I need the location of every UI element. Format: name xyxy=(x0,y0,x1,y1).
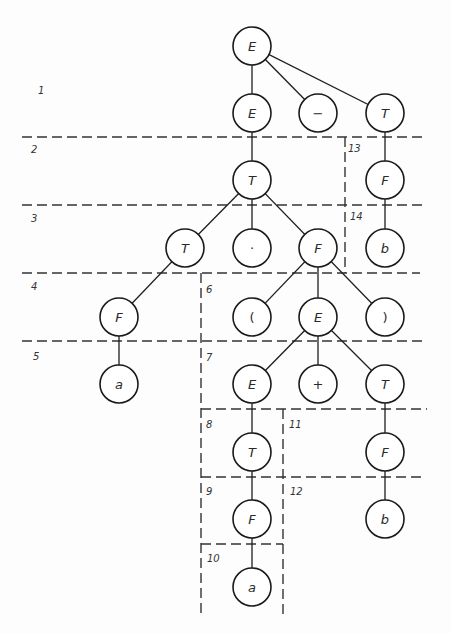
tree-node-symbol: E xyxy=(233,365,271,403)
region-number-label: 6 xyxy=(206,284,212,295)
region-number-label: 11 xyxy=(289,419,302,430)
node-label: F xyxy=(314,241,322,256)
tree-node-symbol: T xyxy=(166,229,204,267)
tree-node-symbol: T xyxy=(366,94,404,132)
region-number-label: 8 xyxy=(206,419,212,430)
tree-node-symbol: E xyxy=(233,94,271,132)
parse-tree-diagram: EE−TTFT·FbF(E)aE+TTFFba 1234567891011121… xyxy=(0,0,451,634)
tree-node-terminal: b xyxy=(366,500,404,538)
tree-node-symbol: F xyxy=(299,229,337,267)
node-label: E xyxy=(248,106,257,121)
node-label: + xyxy=(313,377,324,392)
tree-node-terminal: b xyxy=(366,229,404,267)
node-label: F xyxy=(381,173,389,188)
region-number-label: 2 xyxy=(31,144,37,155)
region-number-label: 10 xyxy=(207,553,220,564)
tree-node-symbol: E xyxy=(233,27,271,65)
tree-nodes: EE−TTFT·FbF(E)aE+TTFFba xyxy=(100,27,404,606)
tree-node-symbol: F xyxy=(366,433,404,471)
node-label: a xyxy=(115,377,123,392)
tree-node-operator: + xyxy=(299,365,337,403)
node-label: T xyxy=(248,445,257,460)
region-number-label: 4 xyxy=(31,281,37,292)
node-label: a xyxy=(248,580,256,595)
tree-node-terminal: a xyxy=(233,568,271,606)
tree-node-symbol: T xyxy=(233,161,271,199)
tree-node-symbol: E xyxy=(299,298,337,336)
tree-node-symbol: F xyxy=(100,298,138,336)
node-label: T xyxy=(248,173,257,188)
node-label: F xyxy=(381,445,389,460)
region-number-label: 5 xyxy=(33,351,39,362)
tree-node-terminal: a xyxy=(100,365,138,403)
node-label: F xyxy=(248,512,256,527)
tree-node-operator: − xyxy=(299,94,337,132)
node-label: F xyxy=(115,310,123,325)
region-number-label: 14 xyxy=(350,211,363,222)
node-label: E xyxy=(314,310,323,325)
tree-node-symbol: F xyxy=(233,500,271,538)
tree-node-operator: ( xyxy=(233,298,271,336)
node-label: ( xyxy=(249,310,254,325)
node-label: E xyxy=(248,39,257,54)
node-label: ) xyxy=(382,310,387,325)
region-number-label: 7 xyxy=(206,352,213,363)
node-label: b xyxy=(381,512,389,527)
region-number-label: 3 xyxy=(31,213,37,224)
node-label: T xyxy=(381,377,390,392)
tree-node-symbol: T xyxy=(366,365,404,403)
node-label: T xyxy=(181,241,190,256)
region-number-label: 1 xyxy=(38,85,44,96)
node-label: T xyxy=(381,106,390,121)
tree-node-symbol: T xyxy=(233,433,271,471)
node-label: · xyxy=(250,241,254,256)
node-label: b xyxy=(381,241,389,256)
tree-node-operator: · xyxy=(233,229,271,267)
tree-node-symbol: F xyxy=(366,161,404,199)
tree-node-operator: ) xyxy=(366,298,404,336)
region-number-label: 9 xyxy=(206,486,212,497)
region-number-label: 12 xyxy=(290,486,303,497)
node-label: − xyxy=(313,106,324,121)
region-number-label: 13 xyxy=(348,143,361,154)
node-label: E xyxy=(248,377,257,392)
